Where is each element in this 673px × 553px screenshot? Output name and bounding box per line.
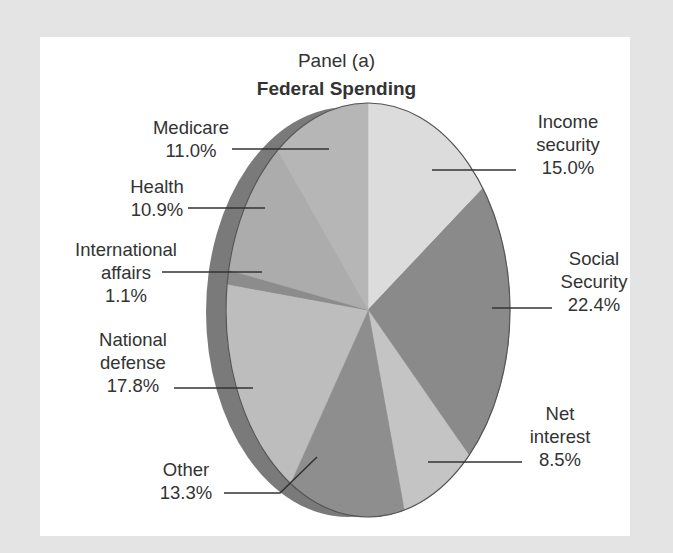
label-other: Other 13.3% xyxy=(148,458,224,504)
label-health: Health 10.9% xyxy=(118,175,196,221)
label-social-security: Social Security 22.4% xyxy=(548,247,640,316)
label-medicare: Medicare 11.0% xyxy=(148,116,234,162)
label-income-security: Income security 15.0% xyxy=(518,110,618,179)
label-net-interest: Net interest 8.5% xyxy=(522,402,598,471)
chart-title: Federal Spending xyxy=(0,78,673,100)
label-national-defense: National defense 17.8% xyxy=(88,328,178,397)
pie-slices xyxy=(226,103,510,517)
chart-subtitle: Panel (a) xyxy=(0,50,673,72)
label-international-affairs: International affairs 1.1% xyxy=(64,238,188,307)
